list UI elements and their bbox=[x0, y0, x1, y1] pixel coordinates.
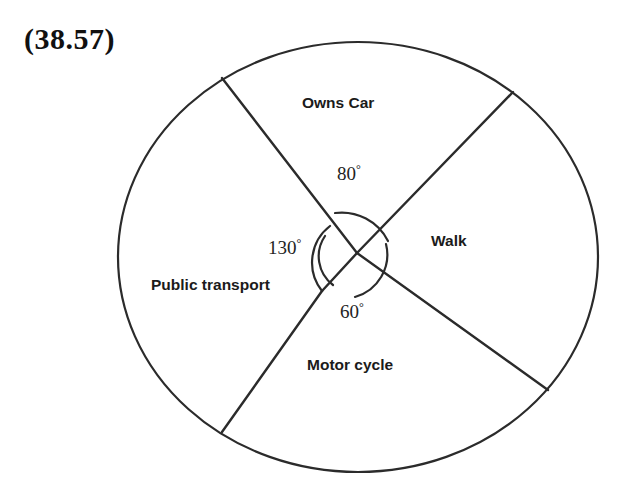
degree-symbol-icon: ° bbox=[359, 300, 364, 314]
pie-slice-label-walk: Walk bbox=[431, 232, 467, 250]
angle-annotation-80: 80° bbox=[337, 163, 361, 185]
angle-annotation-130-value: 130 bbox=[268, 237, 297, 258]
angle-annotation-60-value: 60 bbox=[340, 301, 359, 322]
pie-slice-label-public-transport: Public transport bbox=[151, 276, 270, 294]
pie-slice-label-owns-car: Owns Car bbox=[302, 94, 374, 112]
angle-annotation-60: 60° bbox=[340, 301, 364, 323]
pie-chart-figure: (38.57) Owns Car Walk Public transport M… bbox=[0, 0, 636, 494]
pie-slice-label-motor-cycle: Motor cycle bbox=[307, 356, 393, 374]
angle-annotation-130: 130° bbox=[268, 237, 301, 259]
degree-symbol-icon: ° bbox=[356, 162, 361, 176]
degree-symbol-icon: ° bbox=[297, 236, 302, 250]
pie-chart-drawing bbox=[0, 0, 636, 494]
angle-annotation-80-value: 80 bbox=[337, 163, 356, 184]
question-number-label: (38.57) bbox=[24, 22, 115, 56]
